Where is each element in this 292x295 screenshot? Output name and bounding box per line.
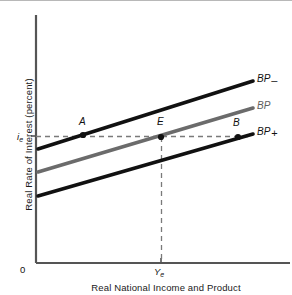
point-label-a: A [79, 116, 86, 127]
data-point-b [235, 134, 241, 140]
y-axis-title: Real Rate of Interest (percent) [23, 60, 34, 230]
point-label-b: B [233, 117, 240, 128]
curve-label-bp-minus: BP– [257, 73, 277, 86]
data-point-a [80, 132, 86, 138]
curve-label-bp-minus-sign: – [270, 74, 277, 86]
x-axis-title: Real National Income and Product [46, 282, 286, 293]
point-label-e: E [157, 116, 164, 127]
bp-curve-chart: Real Rate of Interest (percent) Real Nat… [0, 0, 292, 295]
data-point-e [158, 134, 164, 140]
y-tick-subscript: e [19, 136, 23, 143]
curve-bp-plus [38, 134, 253, 196]
chart-plot-area [0, 1, 292, 295]
y-tick-label-ie: ie [17, 131, 23, 143]
x-tick-label-ye: Ye [154, 266, 164, 278]
curve-label-bp-plus-base: BP [257, 126, 270, 137]
x-tick-subscript: e [160, 271, 164, 278]
curve-label-bp-base: BP [257, 100, 270, 111]
curve-label-bp: BP [257, 100, 271, 113]
curve-label-bp-plus-sign: + [270, 127, 277, 139]
origin-label: 0 [20, 264, 25, 275]
curve-label-bp-sign [270, 101, 271, 113]
curve-label-bp-plus: BP+ [257, 126, 278, 139]
curve-label-bp-minus-base: BP [257, 73, 270, 84]
